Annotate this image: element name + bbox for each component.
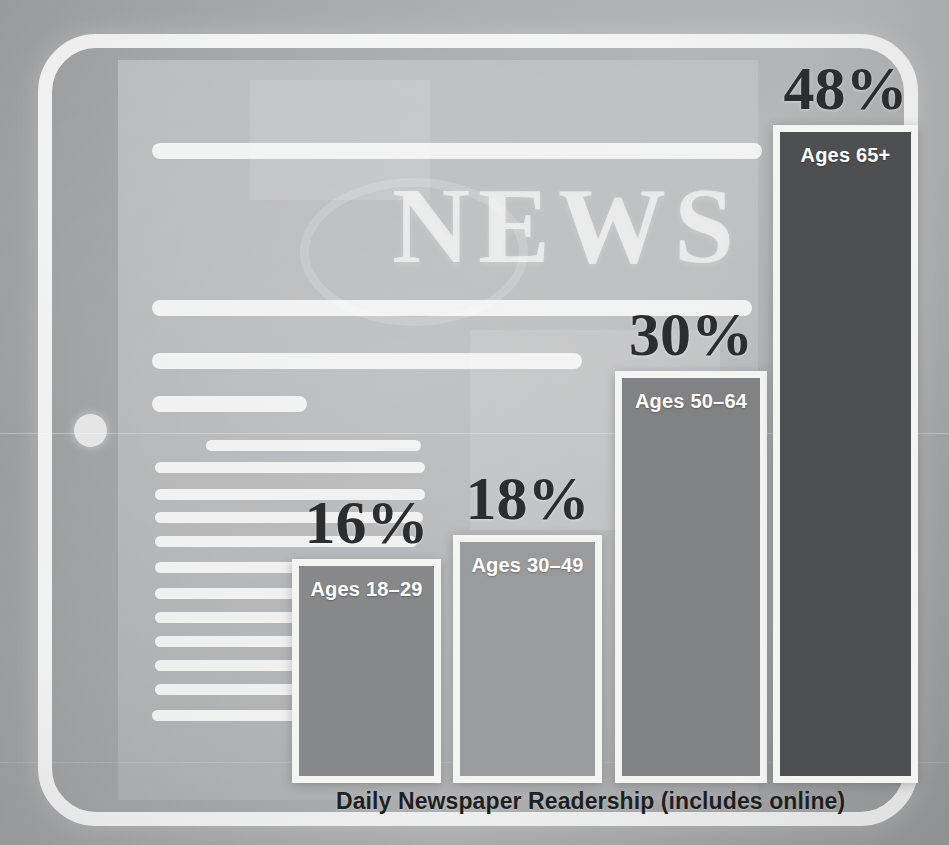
bar-ages-65-plus[interactable]: Ages 65+ [773,125,918,783]
bar-value-ages-65-plus: 48% [773,57,918,119]
bar-group-ages-30-49: 18% Ages 30–49 [453,535,602,783]
bar-label-ages-18-29: Ages 18–29 [299,578,434,601]
bar-label-ages-30-49: Ages 30–49 [460,554,595,577]
bar-label-ages-50-64: Ages 50–64 [622,390,760,413]
bar-ages-30-49[interactable]: Ages 30–49 [453,535,602,783]
infographic-canvas: NEWS 16% Ages 18–29 18% [0,0,949,845]
bar-ages-18-29[interactable]: Ages 18–29 [292,559,441,783]
bar-group-ages-18-29: 16% Ages 18–29 [292,559,441,783]
bar-value-ages-30-49: 18% [453,467,602,529]
bar-ages-50-64[interactable]: Ages 50–64 [615,371,767,783]
bar-label-ages-65-plus: Ages 65+ [780,144,911,167]
chart-caption: Daily Newspaper Readership (includes onl… [336,788,845,815]
bar-value-ages-18-29: 16% [292,491,441,553]
bar-group-ages-50-64: 30% Ages 50–64 [615,371,767,783]
bar-chart: 16% Ages 18–29 18% Ages 30–49 30% Ages 5… [0,0,949,845]
bar-group-ages-65-plus: 48% Ages 65+ [773,125,918,783]
bar-value-ages-50-64: 30% [615,303,767,365]
